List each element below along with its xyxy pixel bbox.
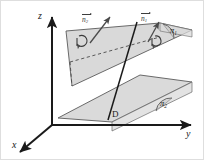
x-axis [20,125,52,152]
diagram-canvas [0,0,204,160]
geometry-figure: z y x D n2 n1 π1 π2 [0,0,204,160]
